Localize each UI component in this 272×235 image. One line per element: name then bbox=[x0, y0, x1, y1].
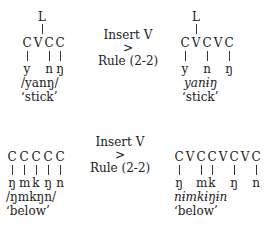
segment: m bbox=[19, 176, 29, 190]
skeleton-slot: V bbox=[240, 150, 250, 164]
skeleton-slot: C bbox=[43, 150, 53, 164]
rule-number: Rule (2-2) bbox=[90, 161, 150, 175]
skeleton-slot: V bbox=[33, 36, 43, 50]
skeleton-slot: C bbox=[55, 36, 65, 50]
association-line bbox=[12, 165, 13, 175]
phonemic-form: /yanŋ/ bbox=[21, 76, 58, 90]
phonemic-form: /ŋmkŋn/ bbox=[6, 190, 56, 204]
gloss: ‘stick’ bbox=[182, 90, 218, 104]
skeleton-slot: C bbox=[207, 150, 217, 164]
association-line bbox=[60, 165, 61, 175]
association-line bbox=[27, 51, 28, 61]
segment: ŋ bbox=[224, 62, 234, 76]
gloss: ‘stick’ bbox=[21, 90, 57, 104]
skeleton-slot: V bbox=[191, 36, 201, 50]
segment: y bbox=[22, 62, 32, 76]
association-line bbox=[60, 51, 61, 61]
skeleton-slot: C bbox=[229, 150, 239, 164]
segment: y bbox=[180, 62, 190, 76]
association-line bbox=[179, 165, 180, 175]
association-line bbox=[49, 51, 50, 61]
skeleton-slot: C bbox=[7, 150, 17, 164]
association-line bbox=[201, 165, 202, 175]
orthographic-form: nɨmkɨŋɨn bbox=[174, 190, 227, 204]
skeleton-slot: C bbox=[44, 36, 54, 50]
skeleton-slot: C bbox=[55, 150, 65, 164]
association-line bbox=[42, 24, 43, 34]
segment: ŋ bbox=[174, 176, 184, 190]
association-line bbox=[256, 165, 257, 175]
skeleton-slot: C bbox=[196, 150, 206, 164]
segment: m bbox=[196, 176, 206, 190]
skeleton-slot: V bbox=[185, 150, 195, 164]
segment: k bbox=[207, 176, 217, 190]
tone-L: L bbox=[192, 10, 200, 24]
association-line bbox=[234, 165, 235, 175]
arrow-symbol: > bbox=[98, 41, 158, 55]
segment: ŋ bbox=[7, 176, 17, 190]
association-line bbox=[196, 24, 197, 34]
segment: n bbox=[251, 176, 261, 190]
association-line bbox=[229, 51, 230, 61]
association-line bbox=[212, 165, 213, 175]
association-line bbox=[24, 165, 25, 175]
segment: n bbox=[55, 176, 65, 190]
skeleton-slot: C bbox=[202, 36, 212, 50]
skeleton-slot: C bbox=[22, 36, 32, 50]
rule-label: Insert V bbox=[98, 28, 158, 42]
association-line bbox=[36, 165, 37, 175]
rule-number: Rule (2-2) bbox=[98, 54, 158, 68]
association-line bbox=[48, 165, 49, 175]
skeleton-slot: V bbox=[213, 36, 223, 50]
skeleton-slot: C bbox=[224, 36, 234, 50]
segment: n bbox=[44, 62, 54, 76]
skeleton-slot: C bbox=[31, 150, 41, 164]
skeleton-slot: C bbox=[180, 36, 190, 50]
rule-label: Insert V bbox=[90, 135, 150, 149]
gloss: ‘below’ bbox=[174, 204, 218, 218]
skeleton-slot: C bbox=[174, 150, 184, 164]
orthographic-form: yanɨŋ bbox=[184, 76, 217, 90]
segment: ŋ bbox=[229, 176, 239, 190]
segment: ŋ bbox=[55, 62, 65, 76]
arrow-symbol: > bbox=[90, 148, 150, 162]
gloss: ‘below’ bbox=[6, 204, 50, 218]
skeleton-slot: V bbox=[218, 150, 228, 164]
tone-L: L bbox=[38, 10, 46, 24]
association-line bbox=[185, 51, 186, 61]
skeleton-slot: C bbox=[19, 150, 29, 164]
segment: n bbox=[202, 62, 212, 76]
skeleton-slot: C bbox=[251, 150, 261, 164]
segment: k bbox=[31, 176, 41, 190]
segment: ŋ bbox=[43, 176, 53, 190]
association-line bbox=[207, 51, 208, 61]
